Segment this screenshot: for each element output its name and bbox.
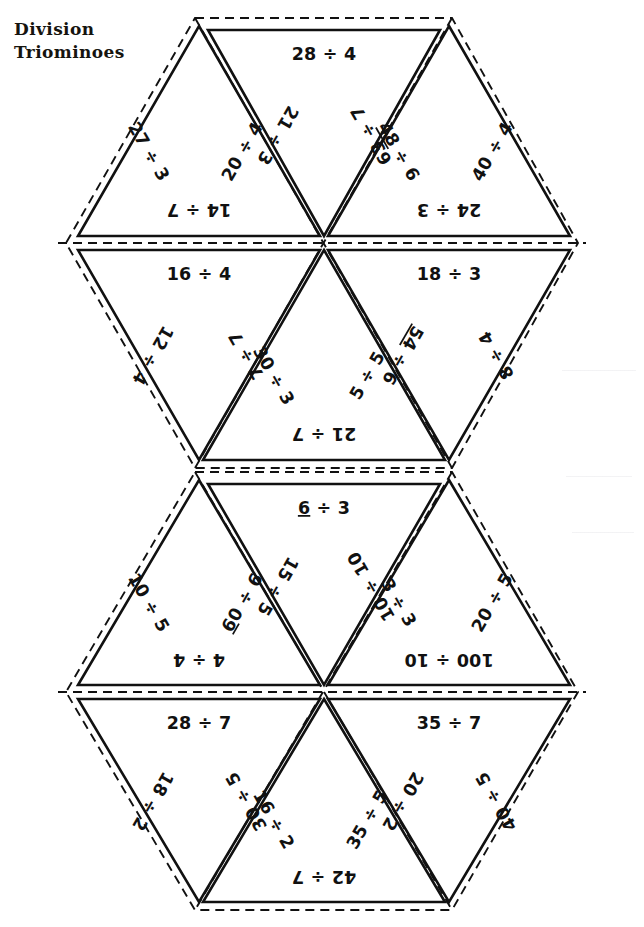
- edge-label-base: 21 ÷ 7: [292, 424, 357, 444]
- bottom-hexagon-triangle-bottom-right-down[interactable]: 35 ÷ 7 20 ÷ 2 40 ÷ 5: [328, 699, 570, 902]
- edge-label-base: 100 ÷ 10: [404, 650, 493, 670]
- edge-label-base: 24 ÷ 3: [417, 200, 482, 220]
- edge-label-base: 14 ÷ 7: [167, 200, 232, 220]
- top-hexagon: 27 ÷ 3 20 ÷ 4 14 ÷ 7 28 ÷ 4 21 ÷ 3 63 ÷ …: [58, 18, 586, 468]
- edge-label-base: 42 ÷ 7: [292, 867, 357, 887]
- edge-label-top: 28 ÷ 7: [167, 713, 232, 733]
- bottom-hexagon-dashed-outline: [66, 472, 578, 910]
- top-hexagon-triangle-bottom-right-down[interactable]: 18 ÷ 3 54 ÷ 6 8 ÷ 4: [328, 250, 570, 460]
- edge-label-top: 18 ÷ 3: [417, 264, 482, 284]
- edge-label-right: 20 ÷ 5: [467, 570, 517, 636]
- edge-label-top: 16 ÷ 4: [167, 264, 232, 284]
- edge-label-right: 8 ÷ 4: [474, 328, 517, 383]
- top-hexagon-triangle-bottom-left-down[interactable]: 16 ÷ 4 12 ÷ 4 7 ÷ 7: [78, 250, 320, 460]
- edge-label-top: 28 ÷ 4: [292, 44, 357, 64]
- bottom-hexagon: 10 ÷ 5 60 ÷ 6 4 ÷ 4 6 ÷ 3 15 ÷ 5 10 ÷ 10…: [58, 472, 586, 910]
- worksheet-page: Division Triominoes 27 ÷ 3 20 ÷ 4 14 ÷ 7: [0, 0, 644, 927]
- edge-label-left: 10 ÷ 5: [124, 570, 174, 636]
- edge-label-right: 40 ÷ 4: [467, 119, 517, 185]
- edge-label-left: 27 ÷ 3: [124, 119, 174, 185]
- edge-label-top: 35 ÷ 7: [417, 713, 482, 733]
- edge-label-base: 4 ÷ 4: [173, 650, 225, 670]
- triominoes-diagram: 27 ÷ 3 20 ÷ 4 14 ÷ 7 28 ÷ 4 21 ÷ 3 63 ÷ …: [0, 0, 644, 927]
- edge-label-top: 6 ÷ 3: [298, 498, 350, 518]
- bottom-hexagon-triangle-bottom-left-down[interactable]: 28 ÷ 7 18 ÷ 2 30 ÷ 5: [78, 699, 320, 902]
